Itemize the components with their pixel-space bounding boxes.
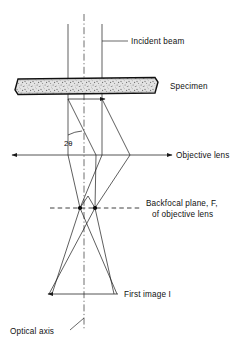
backfocal-plane-label-line2: of objective lens (152, 210, 213, 219)
scattering-arrow (68, 94, 105, 99)
two-theta-angle-arc (68, 131, 82, 135)
incident-beam-label: Incident beam (131, 37, 184, 46)
backfocal-to-image-direct (52, 208, 117, 294)
backfocal-to-image-diffracted (49, 208, 114, 294)
lens-to-backfocal-diffracted (95, 155, 130, 208)
optical-axis-leader (70, 318, 84, 330)
specimen-label: Specimen (170, 82, 208, 91)
objective-lens-label: Objective lens (176, 151, 230, 160)
direct-beam-rays (68, 99, 102, 155)
first-image-label: First image I (124, 290, 171, 299)
backfocal-plane-label-line1: Backfocal plane, F, (146, 199, 218, 208)
optical-axis-label: Optical axis (10, 327, 54, 336)
specimen-slab (15, 78, 158, 95)
diffracted-beam-rays (68, 99, 130, 155)
two-theta-label: 2θ (64, 139, 72, 148)
ray-diagram-figure: Incident beam Specimen (0, 0, 236, 347)
incident-beam-rays (68, 24, 102, 78)
